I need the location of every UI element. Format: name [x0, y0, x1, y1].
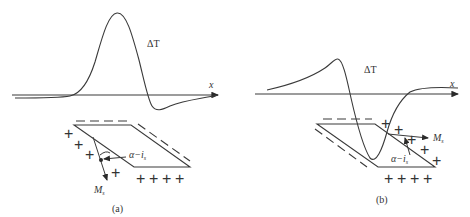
plate-b: [317, 124, 435, 167]
panel-a: x ΔT + + + + + + + + α−is Ms (a): [12, 13, 218, 215]
caption-b: (b): [376, 194, 388, 206]
positive-charge-a: +: [175, 170, 184, 187]
positive-charge-a: +: [111, 164, 120, 181]
positive-charge-a: +: [85, 146, 94, 163]
caption-a: (a): [112, 203, 123, 215]
positive-charge-b: +: [384, 170, 393, 187]
positive-charge-a: +: [162, 170, 171, 187]
positive-charge-b: +: [423, 170, 432, 187]
positive-charge-b: +: [420, 141, 429, 158]
figure-canvas: x ΔT + + + + + + + + α−is Ms (a) x: [0, 0, 470, 217]
delta-t-label-a: ΔT: [147, 38, 160, 49]
delta-t-label-b: ΔT: [364, 64, 377, 75]
positive-charge-a: +: [136, 170, 145, 187]
positive-charge-b: +: [432, 152, 441, 169]
negative-charges-left-b: [315, 129, 367, 167]
angle-label-b: α−is: [391, 153, 409, 165]
angle-label-a: α−is: [129, 149, 147, 161]
positive-charge-b: +: [410, 170, 419, 187]
delta-t-curve-b: [267, 59, 458, 160]
positive-charge-b: +: [397, 170, 406, 187]
vector-origin-a: [99, 158, 103, 162]
ms-label-b: Ms: [432, 132, 444, 144]
x-axis-label-a: x: [208, 79, 214, 90]
angle-arc-a: [100, 152, 110, 155]
positive-charge-b: +: [407, 131, 416, 148]
ms-label-a: Ms: [93, 184, 105, 196]
panel-b: x ΔT + + + + + + + + + Ms α−is (b): [255, 59, 458, 206]
positive-charge-a: +: [64, 125, 73, 142]
positive-charge-b: +: [381, 115, 390, 132]
positive-charge-a: +: [74, 136, 83, 153]
positive-charge-a: +: [149, 170, 158, 187]
